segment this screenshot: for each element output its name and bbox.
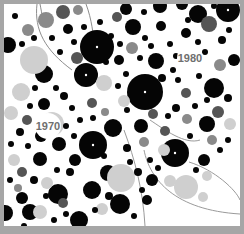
data-circle (81, 24, 87, 30)
data-circle (187, 133, 193, 139)
data-circle (127, 159, 133, 165)
data-circle (126, 42, 138, 54)
data-circle (96, 75, 112, 91)
data-circle (181, 88, 191, 98)
data-circle (123, 71, 129, 77)
data-circle (20, 46, 48, 74)
data-circle (104, 119, 122, 137)
data-circle (33, 152, 47, 166)
data-circle (165, 113, 171, 119)
data-circle (30, 176, 38, 184)
data-circle (141, 9, 147, 15)
data-circle (139, 187, 145, 193)
data-circle (216, 4, 240, 22)
data-circle (228, 54, 240, 66)
data-circle (123, 144, 131, 152)
data-circle (32, 85, 38, 91)
data-circle (53, 85, 59, 91)
data-circle (170, 67, 176, 73)
data-circle (101, 108, 109, 116)
data-circle (158, 74, 166, 82)
data-circle (134, 119, 148, 133)
data-circle (16, 128, 24, 136)
data-circle (12, 13, 18, 19)
data-circle (175, 77, 181, 83)
circle-pack-svg: 1980 1970 (4, 4, 240, 226)
data-circle (155, 165, 161, 171)
data-circle (198, 154, 210, 166)
year-label-1970: 1970 (36, 120, 60, 132)
data-circle (202, 49, 208, 55)
data-circle (41, 177, 53, 189)
data-circle (156, 21, 166, 31)
data-circle (225, 137, 231, 143)
data-circle (71, 133, 77, 139)
data-circle (51, 217, 57, 223)
data-circle (193, 167, 199, 173)
packed-circle-chart: 1980 1970 (4, 4, 240, 226)
data-circle (164, 175, 176, 187)
data-circle (73, 5, 83, 15)
data-circle (148, 43, 154, 49)
chart-frame: 1980 1970 (0, 0, 244, 234)
data-circle (202, 171, 212, 181)
data-circle (33, 205, 47, 219)
data-circle (125, 19, 141, 35)
data-circle (160, 126, 170, 136)
data-circle (224, 94, 232, 102)
data-circle (124, 107, 130, 113)
data-circle (56, 5, 70, 19)
data-circle (192, 103, 198, 109)
data-circle (8, 141, 14, 147)
data-circle (158, 144, 170, 156)
data-circle (83, 181, 101, 199)
data-circle (97, 19, 103, 25)
data-circle (57, 49, 63, 55)
data-circle (107, 164, 135, 192)
data-circle (120, 4, 132, 15)
data-circle (58, 198, 68, 208)
data-circle (101, 153, 107, 159)
data-circle (17, 167, 27, 177)
data-circle (226, 27, 232, 33)
data-circle (214, 59, 226, 71)
data-circle (4, 37, 16, 53)
data-circle (218, 36, 226, 44)
data-circle (54, 167, 60, 173)
data-circle (108, 33, 114, 39)
data-circle (147, 157, 153, 163)
data-circle (207, 135, 217, 145)
data-circle (7, 177, 13, 183)
data-circle (167, 41, 173, 47)
data-circle (77, 117, 83, 123)
data-circle (38, 98, 50, 110)
data-circle (16, 192, 28, 204)
data-circle (14, 184, 22, 192)
data-circle (4, 205, 13, 221)
data-circle (105, 192, 113, 200)
data-circle (21, 223, 27, 226)
data-circle (224, 118, 236, 130)
data-circle (148, 109, 158, 119)
year-label-1980: 1980 (178, 52, 202, 64)
data-circle (172, 104, 180, 112)
data-circle (181, 28, 191, 38)
data-circle (131, 213, 137, 219)
data-circle (153, 4, 167, 13)
data-circle (112, 12, 122, 22)
data-circle (174, 175, 198, 199)
data-circle (148, 53, 164, 69)
data-circle (8, 154, 20, 166)
data-circle (43, 193, 49, 199)
data-circle (63, 24, 73, 34)
data-circle (69, 154, 81, 166)
data-circle (69, 105, 75, 111)
data-circle (25, 143, 31, 149)
data-circle (12, 83, 30, 101)
data-circle (204, 97, 210, 103)
data-circle (137, 55, 143, 61)
data-circle (117, 41, 123, 47)
data-circle (66, 168, 74, 176)
data-circle (70, 211, 88, 226)
circle-group (4, 4, 240, 226)
